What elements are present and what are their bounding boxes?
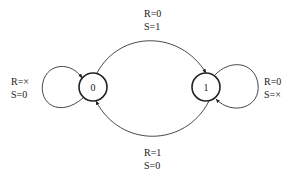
state-1-label: 1 — [204, 82, 209, 93]
label-self-0-s: S=0 — [11, 89, 27, 101]
label-1-to-0-s: S=0 — [144, 160, 160, 172]
state-diagram: 0 1 R=0 S=1 R=1 S=0 R=× S=0 R=0 S=× — [0, 0, 293, 181]
label-self-0-r: R=× — [11, 76, 29, 88]
label-self-1-r: R=0 — [264, 76, 281, 88]
self-loop-0-arrow — [42, 66, 83, 107]
label-0-to-1-r: R=0 — [144, 8, 161, 20]
label-self-1-s: S=× — [264, 89, 281, 101]
transition-0-to-1-arrow — [97, 41, 206, 73]
label-0-to-1-s: S=1 — [144, 21, 160, 33]
state-0-label: 0 — [91, 82, 96, 93]
transition-1-to-0-arrow — [96, 101, 209, 136]
label-1-to-0-r: R=1 — [144, 147, 161, 159]
